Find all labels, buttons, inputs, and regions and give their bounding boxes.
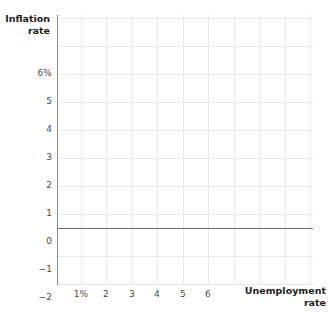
y-axis-tick-label: 0 [8, 236, 52, 246]
y-axis-tick-label: 3 [8, 152, 52, 162]
y-axis-tick-label: −1 [8, 264, 52, 274]
gridline-vertical [208, 15, 209, 285]
gridline-vertical [183, 15, 184, 285]
gridline-vertical [259, 15, 260, 285]
y-axis-tick-label: 4 [8, 124, 52, 134]
gridline-horizontal [57, 74, 313, 75]
gridline-vertical [234, 15, 235, 285]
gridline-vertical [157, 15, 158, 285]
x-axis-zero-line [57, 228, 313, 229]
y-axis-line [57, 15, 58, 285]
y-axis-tick-label: 6% [8, 68, 52, 78]
x-axis-tick-label: 6 [193, 289, 223, 299]
gridline-horizontal [57, 158, 313, 159]
gridline-horizontal [57, 186, 313, 187]
gridline-vertical [310, 15, 311, 285]
y-axis-tick-label: 5 [8, 96, 52, 106]
gridline-horizontal [57, 18, 313, 19]
gridline-horizontal [57, 214, 313, 215]
y-axis-tick-label: 1 [8, 208, 52, 218]
gridline-vertical [132, 15, 133, 285]
gridline-vertical [106, 15, 107, 285]
gridline-vertical [285, 15, 286, 285]
gridline-horizontal [57, 130, 313, 131]
x-axis-tick-labels: 1%23456 [0, 289, 329, 303]
gridline-vertical [81, 15, 82, 285]
gridline-horizontal [57, 256, 313, 257]
gridline-horizontal [57, 102, 313, 103]
plot-area [57, 15, 313, 285]
y-axis-tick-labels: 6%543210−1−2 [4, 0, 52, 323]
phillips-curve-chart: Inflation rate Unemployment rate 6%54321… [0, 0, 329, 323]
gridline-horizontal [57, 46, 313, 47]
y-axis-tick-label: 2 [8, 180, 52, 190]
